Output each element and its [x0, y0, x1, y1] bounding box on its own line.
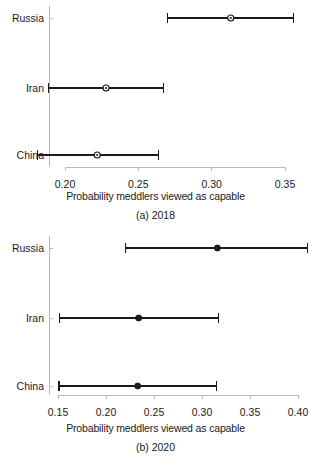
x-tick-label: 0.30: [192, 406, 212, 418]
x-tick-label: 0.20: [96, 406, 116, 418]
x-tick-label: 0.30: [201, 178, 221, 190]
y-axis-label-russia: Russia: [12, 242, 44, 254]
figure-coefficient-plots: Russia Iran China 0.20 0.25 0.30 0.35 Pr…: [0, 0, 311, 466]
x-tick-label: 0.35: [240, 406, 260, 418]
plot-area-2018: [0, 0, 311, 222]
x-tick-label: 0.40: [288, 406, 308, 418]
y-axis-label-china: China: [17, 149, 44, 161]
subcaption-2020: (b) 2020: [0, 441, 311, 453]
x-tick-label: 0.25: [144, 406, 164, 418]
x-tick-label: 0.20: [55, 178, 75, 190]
y-axis-label-iran: Iran: [26, 312, 44, 324]
x-tick-label: 0.15: [48, 406, 68, 418]
y-axis-label-russia: Russia: [12, 12, 44, 24]
y-axis-label-china: China: [17, 380, 44, 392]
x-axis-title-2018: Probability meddlers viewed as capable: [0, 190, 311, 202]
x-axis-title-2020: Probability meddlers viewed as capable: [0, 422, 311, 434]
subcaption-2018: (a) 2018: [0, 209, 311, 221]
y-axis-label-iran: Iran: [26, 82, 44, 94]
x-tick-label: 0.35: [275, 178, 295, 190]
x-tick-label: 0.25: [128, 178, 148, 190]
panel-2018: Russia Iran China 0.20 0.25 0.30 0.35: [0, 0, 311, 222]
